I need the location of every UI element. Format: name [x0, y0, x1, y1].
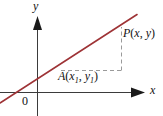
x-axis-label: x: [150, 84, 155, 96]
y-axis: [33, 16, 42, 116]
point-a-label: A(x1, y1): [58, 70, 98, 85]
x-axis-arrowhead-icon: [131, 88, 145, 98]
y-axis-arrowhead-icon: [33, 16, 42, 30]
point-p-close-paren: ): [151, 26, 155, 40]
line-through-points: [0, 15, 137, 104]
origin-label: 0: [22, 95, 28, 107]
point-p-label: P(x, y): [123, 27, 155, 39]
dashed-guides: [61, 27, 122, 71]
coordinate-plane-figure: y x 0 P(x, y) A(x1, y1): [0, 0, 163, 116]
point-a-close-paren: ): [94, 69, 98, 83]
y-axis-label: y: [33, 0, 38, 12]
